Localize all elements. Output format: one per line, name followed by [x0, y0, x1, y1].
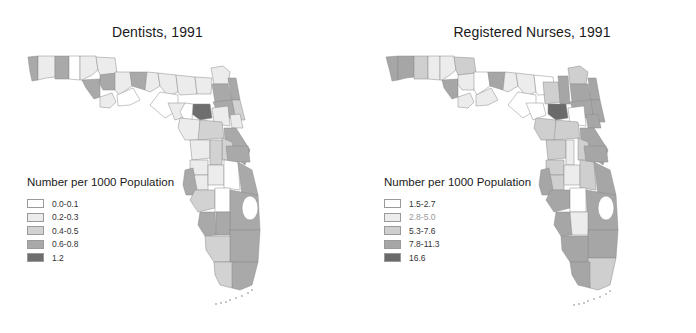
legend-item: 0.2-0.3	[27, 211, 174, 225]
legend-label: 16.6	[409, 253, 426, 263]
legend-label: 0.0-0.1	[52, 199, 78, 209]
legend-title: Number per 1000 Population	[384, 176, 531, 188]
legend: Number per 1000 Population 0.0-0.1 0.2-0…	[27, 176, 174, 265]
legend-swatch	[384, 213, 401, 222]
legend-item: 0.4-0.5	[27, 224, 174, 238]
legend-label: 7.8-11.3	[409, 239, 440, 249]
legend-swatch	[384, 199, 401, 208]
legend-item: 2.8-5.0	[384, 211, 531, 225]
legend-swatch	[27, 213, 44, 222]
nurses-map-panel: Registered Nurses, 1991	[348, 0, 696, 333]
florida-nurses-map	[348, 0, 696, 333]
legend-item: 7.8-11.3	[384, 238, 531, 252]
legend-swatch	[384, 240, 401, 249]
legend-swatch	[384, 253, 401, 262]
legend: Number per 1000 Population 1.5-2.7 2.8-5…	[384, 176, 531, 265]
legend-swatch	[27, 199, 44, 208]
dentists-map-panel: Dentists, 1991	[0, 0, 348, 333]
legend-label: 1.5-2.7	[409, 199, 435, 209]
legend-title: Number per 1000 Population	[27, 176, 174, 188]
legend-label: 5.3-7.6	[409, 226, 435, 236]
legend-label: 2.8-5.0	[409, 212, 435, 222]
legend-swatch	[27, 226, 44, 235]
legend-swatch	[27, 240, 44, 249]
florida-dentists-map	[0, 0, 348, 333]
legend-item: 0.6-0.8	[27, 238, 174, 252]
legend-label: 0.6-0.8	[52, 239, 78, 249]
legend-label: 0.2-0.3	[52, 212, 78, 222]
legend-item: 5.3-7.6	[384, 224, 531, 238]
legend-item: 1.2	[27, 251, 174, 265]
legend-item: 0.0-0.1	[27, 197, 174, 211]
legend-swatch	[27, 253, 44, 262]
legend-swatch	[384, 226, 401, 235]
legend-label: 1.2	[52, 253, 64, 263]
legend-item: 1.5-2.7	[384, 197, 531, 211]
legend-item: 16.6	[384, 251, 531, 265]
legend-label: 0.4-0.5	[52, 226, 78, 236]
